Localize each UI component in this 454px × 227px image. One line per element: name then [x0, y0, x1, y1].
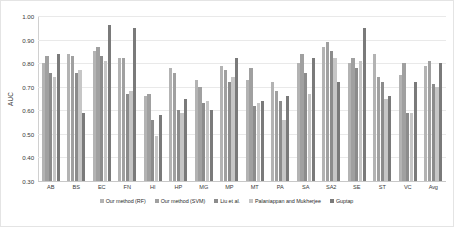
- y-axis-tick-label: 0.40: [8, 154, 34, 161]
- legend-swatch-icon: [155, 199, 159, 203]
- bar: [133, 28, 136, 181]
- bar: [312, 58, 315, 181]
- y-axis-tick-label: 0.50: [8, 130, 34, 137]
- bar: [82, 113, 85, 181]
- bar: [322, 47, 325, 181]
- bar: [198, 87, 201, 181]
- bar: [351, 58, 354, 181]
- bar-group: [140, 16, 166, 181]
- bar: [228, 82, 231, 181]
- bar: [202, 103, 205, 181]
- bar: [249, 68, 252, 181]
- bar: [246, 80, 249, 181]
- bar: [275, 91, 278, 181]
- bar: [122, 58, 125, 181]
- bar: [49, 73, 52, 181]
- legend-swatch-icon: [100, 199, 104, 203]
- x-axis-tick-label: AB: [38, 184, 64, 196]
- bar-group: [293, 16, 319, 181]
- bar: [326, 42, 329, 181]
- bar: [300, 54, 303, 181]
- bar: [169, 68, 172, 181]
- bar: [337, 82, 340, 181]
- bar-group: [89, 16, 115, 181]
- bar: [363, 28, 366, 181]
- bar: [257, 103, 260, 181]
- bar: [399, 75, 402, 181]
- bar: [235, 58, 238, 181]
- bar: [432, 84, 435, 181]
- bar: [184, 99, 187, 182]
- bar: [304, 73, 307, 181]
- bar: [330, 51, 333, 181]
- bar: [206, 101, 209, 181]
- bar: [414, 82, 417, 181]
- bar: [100, 56, 103, 181]
- bar-group: [319, 16, 345, 181]
- bar: [333, 58, 336, 181]
- bar-group: [395, 16, 421, 181]
- bar: [308, 94, 311, 181]
- bar: [177, 110, 180, 181]
- bar: [78, 70, 81, 181]
- x-axis-tick-label: Avg: [421, 184, 447, 196]
- bar-group: [38, 16, 64, 181]
- x-axis-line: [38, 181, 446, 182]
- x-axis-tick-label: MG: [191, 184, 217, 196]
- bar: [67, 54, 70, 181]
- legend-item[interactable]: Our method (RF): [100, 198, 146, 204]
- x-axis-tick-label: VC: [395, 184, 421, 196]
- y-axis-tick-label: 0.90: [8, 36, 34, 43]
- bar: [57, 54, 60, 181]
- bar: [53, 77, 56, 181]
- legend-item[interactable]: Liu et al.: [214, 198, 240, 204]
- y-axis-tick-label: 0.30: [8, 178, 34, 185]
- bar: [355, 68, 358, 181]
- bar: [406, 113, 409, 181]
- bar: [93, 51, 96, 181]
- bar-group: [115, 16, 141, 181]
- y-axis-tick-label: 0.60: [8, 107, 34, 114]
- x-axis-tick-label: SA: [293, 184, 319, 196]
- bar: [126, 94, 129, 181]
- bar: [96, 47, 99, 181]
- bar: [373, 54, 376, 181]
- legend-item[interactable]: Our method (SVM): [155, 198, 205, 204]
- x-axis-tick-label: BS: [64, 184, 90, 196]
- bar: [377, 77, 380, 181]
- x-axis-tick-label: EC: [89, 184, 115, 196]
- legend-item[interactable]: Guptap: [330, 198, 353, 204]
- bar: [75, 73, 78, 181]
- bar: [348, 63, 351, 181]
- bar-group: [166, 16, 192, 181]
- y-axis-tick-label: 1.00: [8, 13, 34, 20]
- plot-area: [38, 16, 446, 181]
- bar: [381, 82, 384, 181]
- legend-label: Our method (RF): [106, 198, 146, 204]
- bar: [210, 110, 213, 181]
- bar: [359, 61, 362, 181]
- bar: [402, 63, 405, 181]
- x-axis-tick-label: ST: [370, 184, 396, 196]
- bar-group: [421, 16, 447, 181]
- bar: [435, 87, 438, 181]
- bar-group: [370, 16, 396, 181]
- bar: [220, 66, 223, 182]
- bar: [180, 113, 183, 181]
- bar: [231, 77, 234, 181]
- x-axis-labels: ABBSECFNHIHPMGMPMTPASASA2SESTVCAvg: [38, 184, 446, 196]
- bar-group: [191, 16, 217, 181]
- bar: [195, 80, 198, 181]
- bar: [159, 115, 162, 181]
- bar: [271, 82, 274, 181]
- legend-label: Our method (SVM): [161, 198, 205, 204]
- bar: [173, 73, 176, 181]
- bar: [253, 106, 256, 181]
- bar: [410, 113, 413, 181]
- bar: [388, 96, 391, 181]
- y-axis-tick-label: 0.80: [8, 60, 34, 67]
- x-axis-tick-label: MT: [242, 184, 268, 196]
- bar: [224, 70, 227, 181]
- legend-item[interactable]: Palaniappan and Mukherjee: [249, 198, 321, 204]
